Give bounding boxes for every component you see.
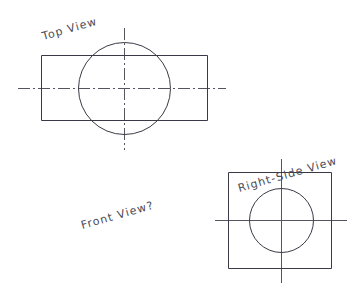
drawing-canvas: Top View Front View? Right-Side View — [0, 0, 364, 293]
top-view-group — [18, 28, 226, 150]
orthographic-drawing — [0, 0, 364, 293]
